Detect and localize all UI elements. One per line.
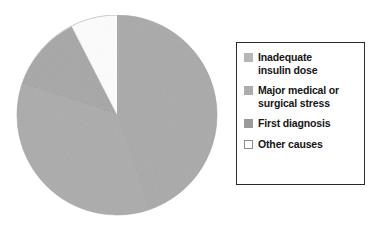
pie-chart-figure: Inadequate insulin dose Major medical or… (0, 0, 373, 227)
legend-swatch-icon-first-diagnosis (244, 119, 253, 128)
legend-item-major-medical-or-surgical-stress[interactable]: Major medical or surgical stress (244, 84, 360, 109)
legend-item-other-causes[interactable]: Other causes (244, 138, 360, 151)
chart-legend: Inadequate insulin dose Major medical or… (236, 42, 365, 185)
legend-label-major-medical-or-surgical-stress: Major medical or surgical stress (258, 84, 339, 109)
legend-item-first-diagnosis[interactable]: First diagnosis (244, 117, 360, 130)
pie-chart (15, 12, 219, 218)
legend-label-first-diagnosis: First diagnosis (258, 117, 330, 130)
legend-item-inadequate-insulin-dose[interactable]: Inadequate insulin dose (244, 51, 360, 76)
pie-chart-svg (15, 12, 219, 218)
legend-item-list: Inadequate insulin dose Major medical or… (244, 51, 360, 150)
legend-label-inadequate-insulin-dose: Inadequate insulin dose (258, 51, 317, 76)
legend-swatch-icon-inadequate-insulin-dose (244, 53, 253, 62)
legend-swatch-icon-major-medical-or-surgical-stress (244, 86, 253, 95)
legend-label-other-causes: Other causes (258, 138, 323, 151)
legend-swatch-icon-other-causes (244, 140, 253, 149)
